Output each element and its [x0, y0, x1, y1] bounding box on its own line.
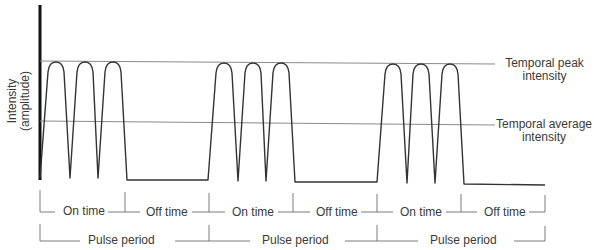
on-off-bracket-row	[40, 190, 545, 212]
temporal-peak-label: Temporal peak intensity	[498, 57, 591, 83]
off-time-label-2: Off time	[316, 206, 358, 219]
on-time-label-2: On time	[232, 206, 274, 219]
y-axis-label: Intensity (amplitude)	[6, 56, 32, 146]
off-time-label-1: Off time	[146, 206, 188, 219]
temporal-average-label: Temporal average intensity	[494, 118, 594, 144]
pulse-period-label-3: Pulse period	[430, 234, 497, 247]
pulse-period-label-1: Pulse period	[88, 234, 155, 247]
on-time-label-3: On time	[400, 206, 442, 219]
pulse-period-label-2: Pulse period	[262, 234, 329, 247]
on-time-label-1: On time	[63, 205, 105, 218]
temporal-average-line	[40, 121, 495, 125]
off-time-label-3: Off time	[484, 206, 526, 219]
y-axis-label-line2: (amplitude)	[19, 56, 32, 146]
